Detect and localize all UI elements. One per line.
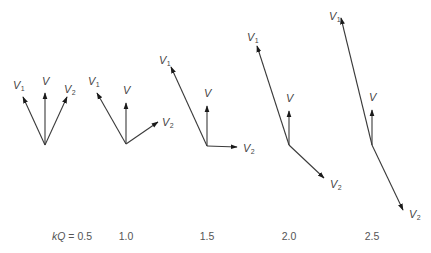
vector-v1-arrow bbox=[97, 93, 126, 144]
label-v2-subscript: 2 bbox=[251, 148, 255, 155]
vector-v1-arrow bbox=[23, 97, 45, 145]
vector-v2-arrow bbox=[45, 97, 67, 145]
vector-v2-arrow bbox=[126, 122, 158, 144]
label-v2: V2 bbox=[162, 116, 174, 129]
equals-sign: = 0.5 bbox=[65, 230, 92, 242]
label-v: V bbox=[369, 91, 378, 103]
phasor-diagram-canvas: V1VV2kQ = 0.5V1VV21.0V1VV21.5V1VV22.0V1V… bbox=[0, 0, 431, 253]
phasor-panel-kq-2-5: V1VV22.5 bbox=[329, 10, 421, 242]
vector-v1-arrow bbox=[341, 18, 372, 145]
label-v2-subscript: 2 bbox=[417, 214, 421, 221]
label-v2-subscript: 2 bbox=[170, 122, 174, 129]
label-v: V bbox=[204, 87, 213, 99]
parameter-symbol: kQ bbox=[52, 230, 65, 242]
label-v1-subscript: 1 bbox=[21, 85, 25, 92]
label-v2-subscript: 2 bbox=[338, 184, 342, 191]
vector-v2-arrow bbox=[372, 145, 403, 210]
label-v2: V2 bbox=[243, 142, 255, 155]
phasor-panel-kq-1-0: V1VV21.0 bbox=[88, 75, 174, 242]
vector-v2-arrow bbox=[289, 145, 324, 178]
vector-v1-arrow bbox=[257, 46, 289, 145]
label-v1: V1 bbox=[329, 10, 341, 23]
label-v: V bbox=[286, 92, 295, 104]
label-v: V bbox=[42, 75, 51, 87]
label-v: V bbox=[123, 84, 132, 96]
label-v1-subscript: 1 bbox=[337, 16, 341, 23]
caption-kq: kQ = 0.5 bbox=[52, 230, 92, 242]
label-v1: V1 bbox=[247, 31, 259, 44]
label-v1: V1 bbox=[88, 75, 100, 88]
label-v2: V2 bbox=[330, 178, 342, 191]
label-v1-subscript: 1 bbox=[96, 81, 100, 88]
phasor-panel-kq-1-5: V1VV21.5 bbox=[159, 54, 255, 242]
caption-kq-value: 1.5 bbox=[200, 230, 215, 242]
label-v1: V1 bbox=[13, 79, 25, 92]
label-v1-subscript: 1 bbox=[255, 37, 259, 44]
caption-kq-value: 2.5 bbox=[365, 230, 380, 242]
label-v1: V1 bbox=[159, 54, 171, 67]
label-v2-subscript: 2 bbox=[72, 89, 76, 96]
label-v1-subscript: 1 bbox=[167, 60, 171, 67]
label-v2: V2 bbox=[64, 83, 76, 96]
phasor-panel-kq-0-5: V1VV2kQ = 0.5 bbox=[13, 75, 92, 242]
caption-kq-value: 1.0 bbox=[119, 230, 134, 242]
phasor-panel-kq-2-0: V1VV22.0 bbox=[247, 31, 342, 242]
caption-kq-value: 2.0 bbox=[282, 230, 297, 242]
vector-v2-arrow bbox=[207, 146, 237, 147]
label-v2: V2 bbox=[409, 208, 421, 221]
vector-v1-arrow bbox=[171, 67, 207, 146]
